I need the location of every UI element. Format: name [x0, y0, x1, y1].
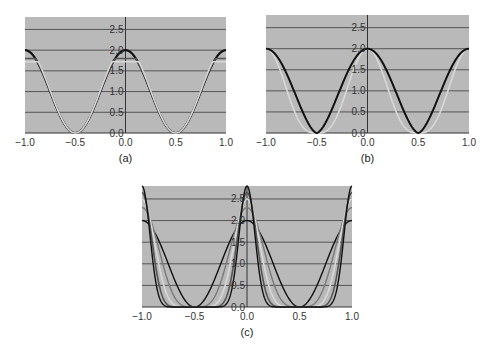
- y-tick-label: 1.0: [352, 85, 366, 96]
- chart-caption: (a): [119, 152, 132, 164]
- y-tick-label: 1.5: [110, 65, 124, 76]
- y-tick-label: 2.5: [110, 24, 124, 35]
- x-tick-label: 0.0: [361, 137, 375, 148]
- y-tick-label: 1.0: [110, 86, 124, 97]
- y-tick-label: 2.5: [352, 22, 366, 33]
- x-tick-label: −1.0: [256, 137, 276, 148]
- x-tick-label: 0.0: [240, 311, 254, 322]
- y-tick-label: 2.0: [231, 215, 245, 226]
- chart-caption: (b): [361, 152, 374, 164]
- x-tick-label: −0.5: [65, 137, 85, 148]
- chart-a: 0.00.51.01.52.02.5−1.0−0.50.00.51.0(a): [15, 17, 233, 164]
- x-tick-label: −0.5: [307, 137, 327, 148]
- chart-b: 0.00.51.01.52.02.5−1.0−0.50.00.51.0(b): [256, 15, 476, 164]
- y-tick-label: 2.5: [231, 193, 245, 204]
- y-tick-label: 1.5: [352, 64, 366, 75]
- x-tick-label: −0.5: [185, 311, 205, 322]
- y-tick-label: 0.5: [352, 106, 366, 117]
- y-tick-label: 1.0: [231, 258, 245, 269]
- x-tick-label: 0.5: [169, 137, 183, 148]
- y-tick-label: 1.5: [231, 237, 245, 248]
- y-tick-label: 0.5: [110, 107, 124, 118]
- x-tick-label: 1.0: [462, 137, 476, 148]
- y-tick-label: 2.0: [110, 45, 124, 56]
- y-tick-label: 2.0: [352, 43, 366, 54]
- x-tick-label: 0.5: [411, 137, 425, 148]
- x-tick-label: 1.0: [345, 311, 359, 322]
- x-tick-label: 0.5: [293, 311, 307, 322]
- chart-c: 0.00.51.01.52.02.5−1.0−0.50.00.51.0(c): [132, 186, 359, 338]
- x-tick-label: 1.0: [219, 137, 233, 148]
- figure: 0.00.51.01.52.02.5−1.0−0.50.00.51.0(a) 0…: [0, 0, 494, 351]
- chart-caption: (c): [241, 326, 254, 338]
- x-tick-label: −1.0: [132, 311, 152, 322]
- x-tick-label: −1.0: [15, 137, 35, 148]
- y-tick-label: 0.5: [231, 280, 245, 291]
- x-tick-label: 0.0: [119, 137, 133, 148]
